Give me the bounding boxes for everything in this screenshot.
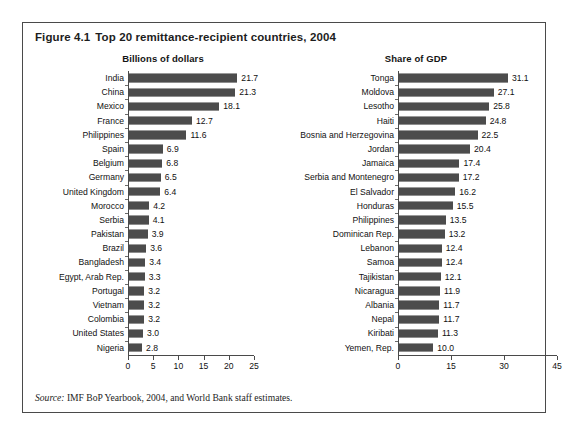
y-axis-tick [125, 114, 129, 115]
bar-value-label: 24.8 [486, 114, 507, 128]
bar-value-label: 17.2 [459, 170, 480, 184]
bar-track: 21.3 [128, 85, 269, 99]
bar [398, 130, 478, 139]
figure-title: Figure 4.1Top 20 remittance-recipient co… [35, 31, 336, 43]
bar [398, 144, 470, 153]
bar-row: Lesotho25.8 [273, 99, 541, 113]
x-axis-tick [504, 356, 505, 360]
bar-track: 3.0 [128, 326, 269, 340]
category-label: Mexico [29, 99, 128, 113]
bar [398, 88, 494, 97]
bar [128, 102, 219, 111]
x-axis-tick-label: 15 [199, 361, 209, 371]
category-label: El Salvador [273, 185, 398, 199]
y-axis-tick [125, 256, 129, 257]
x-axis-tick [128, 356, 129, 360]
bar-track: 3.6 [128, 241, 269, 255]
bar-track: 11.6 [128, 128, 269, 142]
bar [398, 300, 439, 309]
x-axis-tick-label: 5 [151, 361, 156, 371]
category-label: Germany [29, 170, 128, 184]
bar-value-label: 3.2 [144, 284, 160, 298]
category-label: China [29, 85, 128, 99]
bar-track: 12.4 [398, 255, 541, 269]
bar-value-label: 6.4 [160, 185, 176, 199]
bar-track: 12.1 [398, 270, 541, 284]
bar-track: 18.1 [128, 99, 269, 113]
y-axis-tick [395, 270, 399, 271]
bar-value-label: 3.0 [143, 326, 159, 340]
bar [128, 187, 160, 196]
bar-row: Honduras15.5 [273, 199, 541, 213]
figure-frame: Figure 4.1Top 20 remittance-recipient co… [22, 22, 546, 413]
figure-title-text: Top 20 remittance-recipient countries, 2… [95, 31, 336, 43]
bar [398, 343, 433, 352]
y-axis-tick [125, 85, 129, 86]
bar-row: El Salvador16.2 [273, 185, 541, 199]
y-axis-tick [395, 156, 399, 157]
figure-number: Figure 4.1 [35, 31, 90, 43]
bar-track: 25.8 [398, 99, 541, 113]
x-axis-tick-label: 0 [396, 361, 401, 371]
x-axis-tick [229, 356, 230, 360]
bar-value-label: 3.6 [146, 241, 162, 255]
bar-track: 11.3 [398, 326, 541, 340]
category-label: Portugal [29, 284, 128, 298]
bar-track: 22.5 [398, 128, 541, 142]
x-axis-tick-label: 30 [499, 361, 509, 371]
x-axis-ticks-share-of-gdp: 0153045 [398, 356, 557, 372]
y-axis-tick [125, 170, 129, 171]
bar-value-label: 12.4 [442, 241, 463, 255]
bar-value-label: 11.6 [186, 128, 206, 142]
bar-track: 4.2 [128, 199, 269, 213]
category-label: United Kingdom [29, 185, 128, 199]
bar-row: Philippines13.5 [273, 213, 541, 227]
bar-value-label: 22.5 [478, 128, 499, 142]
bar-row: Haiti24.8 [273, 114, 541, 128]
x-axis-tick [153, 356, 154, 360]
bar-value-label: 6.8 [162, 156, 178, 170]
y-axis-tick [125, 227, 129, 228]
bar [398, 258, 442, 267]
category-label: Nepal [273, 312, 398, 326]
y-axis-tick [125, 312, 129, 313]
bar-track: 21.7 [128, 71, 269, 85]
bar [398, 73, 508, 82]
bar [128, 343, 142, 352]
y-axis-tick [395, 341, 399, 342]
x-axis-tick [204, 356, 205, 360]
bar-row: Samoa12.4 [273, 255, 541, 269]
chart-title-billions: Billions of dollars [29, 53, 269, 64]
category-label: Serbia [29, 213, 128, 227]
y-axis-tick [395, 199, 399, 200]
bar-track: 3.4 [128, 255, 269, 269]
bar-row: Tajikistan12.1 [273, 270, 541, 284]
y-axis-tick [395, 298, 399, 299]
bar-track: 3.2 [128, 284, 269, 298]
bar-track: 13.2 [398, 227, 541, 241]
y-axis-tick [395, 241, 399, 242]
x-axis-tick [178, 356, 179, 360]
bar [398, 329, 438, 338]
bar-track: 11.7 [398, 298, 541, 312]
bar-track: 4.1 [128, 213, 269, 227]
bar-row: Belgium6.8 [29, 156, 269, 170]
bar-track: 31.1 [398, 71, 541, 85]
bar-row: Vietnam3.2 [29, 298, 269, 312]
bar-track: 11.7 [398, 312, 541, 326]
bar-row: Jamaica17.4 [273, 156, 541, 170]
y-axis-tick [125, 213, 129, 214]
bar-row: United States3.0 [29, 326, 269, 340]
y-axis-tick [395, 312, 399, 313]
bar-row: Tonga31.1 [273, 71, 541, 85]
x-axis-tick [254, 356, 255, 360]
bar-value-label: 12.4 [442, 255, 463, 269]
plot-area-billions: India21.7China21.3Mexico18.1France12.7Ph… [29, 71, 269, 355]
category-label: Haiti [273, 114, 398, 128]
bar [398, 201, 453, 210]
bar-value-label: 6.5 [161, 170, 177, 184]
bar-track: 6.8 [128, 156, 269, 170]
bar-track: 10.0 [398, 341, 541, 355]
bar [128, 315, 144, 324]
y-axis-tick [395, 142, 399, 143]
